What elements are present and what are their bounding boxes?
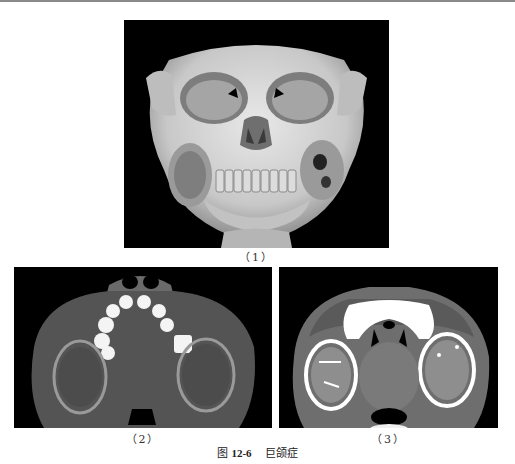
figure-panel-2-ct-bone-window: [14, 267, 272, 428]
figure-panel-1-3d-skull: [124, 20, 389, 248]
figure-caption: 图 12-6 巨颌症: [0, 444, 515, 460]
panel-1-caption: （1）: [124, 248, 389, 264]
figure-title: 巨颌症: [265, 447, 298, 460]
figure-panel-3-ct-soft-tissue-window: [279, 267, 498, 428]
page-top-rule: [0, 0, 515, 2]
figure-number: 12-6: [231, 447, 251, 459]
skull-3d-image: [124, 20, 389, 248]
axial-ct-soft-tissue-image: [279, 267, 498, 428]
figure-label-prefix: 图: [217, 447, 228, 460]
axial-ct-bone-window-image: [14, 267, 272, 428]
